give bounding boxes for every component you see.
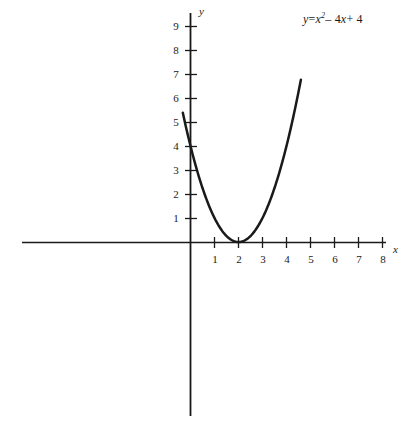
graph-figure: 1 2 3 4 5 6 7 8 1 2 3 4 5 6 7 8 9 x y y=…: [0, 0, 409, 425]
equation-equals: =: [309, 12, 316, 26]
x-tick-label-3: 3: [256, 253, 270, 265]
y-tick-label-2: 2: [169, 188, 183, 200]
y-tick-label-5: 5: [169, 116, 183, 128]
y-tick-label-3: 3: [169, 164, 183, 176]
x-axis-label: x: [393, 243, 398, 255]
x-tick-label-2: 2: [232, 253, 246, 265]
y-axis-label: y: [199, 5, 204, 17]
x-tick-label-4: 4: [280, 253, 294, 265]
y-tick-label-9: 9: [169, 20, 183, 32]
coordinate-plane-svg: [0, 0, 409, 425]
x-tick-label-5: 5: [304, 253, 318, 265]
y-tick-label-8: 8: [169, 44, 183, 56]
y-tick-label-1: 1: [169, 212, 183, 224]
x-tick-label-7: 7: [352, 253, 366, 265]
x-tick-label-8: 8: [376, 253, 390, 265]
y-tick-label-7: 7: [169, 68, 183, 80]
parabola-curve: [183, 80, 301, 242]
equation-plus-term: + 4: [346, 12, 362, 26]
x-tick-label-1: 1: [208, 253, 222, 265]
y-tick-label-6: 6: [169, 92, 183, 104]
equation-annotation: y=x2– 4x+ 4: [303, 11, 363, 27]
equation-minus-term: – 4: [325, 12, 341, 26]
x-tick-label-6: 6: [328, 253, 342, 265]
y-tick-label-4: 4: [169, 140, 183, 152]
